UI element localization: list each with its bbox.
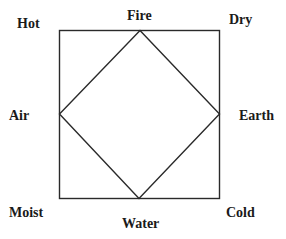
label-dry: Dry	[229, 13, 252, 27]
label-moist: Moist	[9, 206, 43, 220]
label-fire: Fire	[127, 9, 152, 23]
label-hot: Hot	[17, 17, 40, 31]
inner-diamond	[60, 31, 220, 199]
label-air: Air	[9, 109, 29, 123]
label-water: Water	[122, 217, 159, 231]
label-cold: Cold	[226, 206, 255, 220]
outer-square	[60, 31, 220, 199]
label-earth: Earth	[239, 109, 274, 123]
